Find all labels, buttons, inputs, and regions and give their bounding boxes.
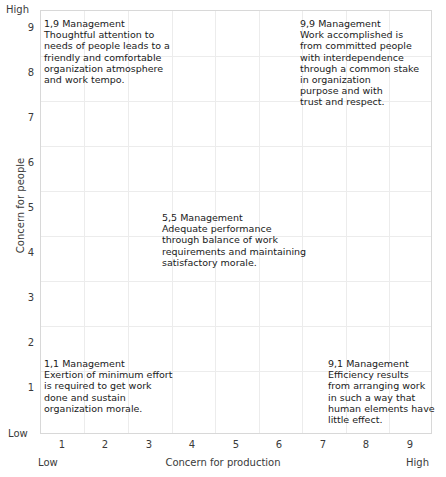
annotation-1-1: 1,1 Management Exertion of minimum effor… xyxy=(44,358,194,414)
y-tick-5: 5 xyxy=(14,203,34,213)
gridline-h-6 xyxy=(41,146,431,147)
x-tick-8: 8 xyxy=(354,440,378,450)
x-tick-3: 3 xyxy=(137,440,161,450)
x-axis-high-label: High xyxy=(406,457,429,468)
y-tick-2: 2 xyxy=(14,338,34,348)
x-tick-1: 1 xyxy=(50,440,74,450)
x-tick-4: 4 xyxy=(180,440,204,450)
annotation-9-9: 9,9 Management Work accomplished is from… xyxy=(300,18,440,108)
y-tick-9: 9 xyxy=(14,23,34,33)
x-tick-5: 5 xyxy=(224,440,248,450)
y-tick-6: 6 xyxy=(14,158,34,168)
y-tick-4: 4 xyxy=(14,248,34,258)
x-tick-2: 2 xyxy=(93,440,117,450)
x-axis-title: Concern for production xyxy=(0,457,446,468)
gridline-h-5 xyxy=(41,191,431,192)
y-tick-3: 3 xyxy=(14,293,34,303)
x-tick-6: 6 xyxy=(267,440,291,450)
y-tick-1: 1 xyxy=(14,383,34,393)
gridline-h-2 xyxy=(41,326,431,327)
y-axis-high-label: High xyxy=(6,4,29,15)
y-axis-low-label: Low xyxy=(8,428,28,439)
annotation-1-9: 1,9 Management Thoughtful attention to n… xyxy=(44,18,194,85)
annotation-5-5: 5,5 Management Adequate performance thro… xyxy=(162,212,322,268)
x-tick-9: 9 xyxy=(398,440,422,450)
y-tick-7: 7 xyxy=(14,113,34,123)
annotation-9-1: 9,1 Management Efficiency results from a… xyxy=(328,358,443,425)
gridline-h-3 xyxy=(41,281,431,282)
x-tick-7: 7 xyxy=(311,440,335,450)
y-tick-8: 8 xyxy=(14,68,34,78)
